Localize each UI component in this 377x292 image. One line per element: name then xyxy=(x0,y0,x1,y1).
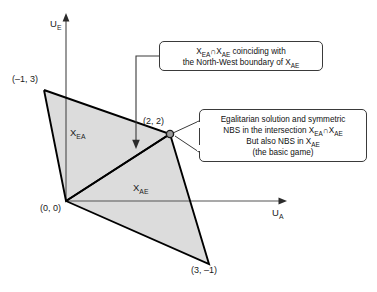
callout-2-leader xyxy=(173,121,199,152)
callout-intersection-nw-boundary: XEA∩XAE coinciding with the North-West b… xyxy=(159,41,323,71)
figure-container: UE UA XEA XAE (–1, 3) (2, 2) (0, 0) (3, … xyxy=(0,0,377,292)
callout-1-line-1: XEA∩XAE coinciding with xyxy=(165,46,317,57)
region-label-x-ae: XAE xyxy=(133,183,148,193)
callout-2-line-1: Egalitarian solution and symmetric xyxy=(205,114,361,125)
callout-egalitarian-nbs: Egalitarian solution and symmetric NBS i… xyxy=(199,109,367,162)
point-marker-2-2 xyxy=(166,130,173,137)
callout-2-notch-lower xyxy=(197,145,204,151)
coord-label-minus1-3: (–1, 3) xyxy=(12,75,38,84)
callout-1-line-2: the North-West boundary of XAE xyxy=(165,57,317,68)
coord-label-3-minus1: (3, –1) xyxy=(191,266,217,275)
callout-2-line-3: But also NBS in XAE xyxy=(205,136,361,147)
region-label-x-ea: XEA xyxy=(70,128,85,138)
coord-label-0-0: (0, 0) xyxy=(40,204,61,213)
callout-2-line-4: (the basic game) xyxy=(205,147,361,158)
callout-2-line-2: NBS in the intersection XEA∩XAE xyxy=(205,125,361,136)
coord-label-2-2: (2, 2) xyxy=(143,117,164,126)
x-axis-label: UA xyxy=(272,208,283,218)
y-axis-label: UE xyxy=(50,19,61,29)
callout-2-notch-upper xyxy=(197,122,204,128)
